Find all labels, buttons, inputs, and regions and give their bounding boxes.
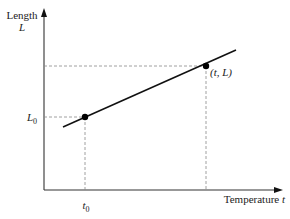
x-axis-label: Temperature t bbox=[224, 193, 286, 205]
point-final-label: (t, L) bbox=[210, 66, 232, 79]
point-initial bbox=[82, 114, 88, 120]
length-line bbox=[63, 50, 236, 127]
t0-label: t0 bbox=[82, 199, 89, 214]
y-axis-arrow-icon bbox=[41, 8, 47, 17]
point-final bbox=[203, 63, 209, 69]
length-temperature-diagram: Length L L0 t0 (t, L) Temperature t bbox=[0, 0, 290, 219]
y-axis-variable: L bbox=[18, 21, 25, 33]
L0-label: L0 bbox=[26, 111, 37, 126]
y-axis-label: Length bbox=[6, 9, 38, 21]
